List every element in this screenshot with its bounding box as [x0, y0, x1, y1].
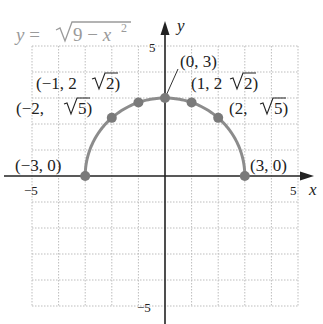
- svg-text:5): 5): [274, 99, 288, 118]
- data-point: [187, 97, 197, 107]
- point-label-1-2sqrt2: (1, 2 2): [191, 73, 258, 93]
- svg-text:y =: y =: [14, 24, 45, 45]
- svg-text:(−1, 2: (−1, 2: [36, 74, 77, 93]
- point-label-neg1-2sqrt2: (−1, 2 2): [36, 73, 120, 93]
- equation-var: x: [102, 24, 112, 45]
- y-axis-label: y: [175, 16, 185, 35]
- y-axis-arrow-icon: [161, 21, 170, 35]
- data-point: [80, 171, 90, 181]
- svg-text:2): 2): [106, 74, 120, 93]
- equation-label: y = 9 − x 2: [14, 21, 131, 45]
- x-tick-5: 5: [290, 183, 297, 198]
- svg-text:9 − x: 9 − x: [73, 24, 112, 45]
- data-point: [107, 113, 117, 123]
- equation-eq: =: [24, 24, 44, 45]
- svg-text:(−2,: (−2,: [16, 99, 48, 118]
- data-point: [160, 93, 170, 103]
- svg-text:5): 5): [78, 99, 92, 118]
- svg-text:(2,: (2,: [229, 99, 252, 118]
- point-label-neg2-sqrt5: (−2, 5): [16, 98, 92, 118]
- svg-text:2): 2): [244, 74, 258, 93]
- equation-exponent: 2: [121, 21, 127, 35]
- y-tick-neg5: −5: [137, 300, 151, 315]
- point-label-neg3-0: (−3, 0): [15, 156, 61, 175]
- data-point: [213, 113, 223, 123]
- x-axis-label: x: [308, 180, 317, 199]
- equation-lhs: y: [14, 24, 25, 45]
- x-tick-neg5: −5: [24, 183, 38, 198]
- y-tick-5: 5: [149, 40, 156, 55]
- chart-plot: −5 5 5 −5 x y y = 9 − x 2 (−3, 0) (−2, 5…: [0, 0, 323, 324]
- data-point: [133, 97, 143, 107]
- point-label-3-0: (3, 0): [250, 156, 287, 175]
- data-point: [240, 171, 250, 181]
- svg-text:(1, 2: (1, 2: [191, 74, 222, 93]
- point-label-0-3: (0, 3): [180, 52, 217, 71]
- equation-radicand: 9 −: [73, 24, 103, 45]
- point-label-2-sqrt5: (2, 5): [229, 98, 288, 118]
